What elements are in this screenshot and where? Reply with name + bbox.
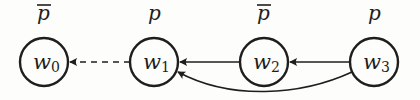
prop-label: p [368, 1, 381, 25]
world-label: w2 [253, 50, 280, 75]
world-label: w1 [143, 50, 170, 75]
world-label: w3 [363, 50, 390, 75]
node-w3: w3 p [350, 1, 398, 86]
node-w0: w0 p [20, 1, 68, 86]
prop-label: p [148, 1, 161, 25]
edge-w3-to-w1-curved [178, 72, 352, 92]
node-w2: w2 p [240, 1, 288, 86]
world-label: w0 [33, 50, 60, 75]
kripke-diagram: w0 p w1 p w2 p w3 p [0, 0, 420, 100]
node-w1: w1 p [130, 1, 178, 86]
